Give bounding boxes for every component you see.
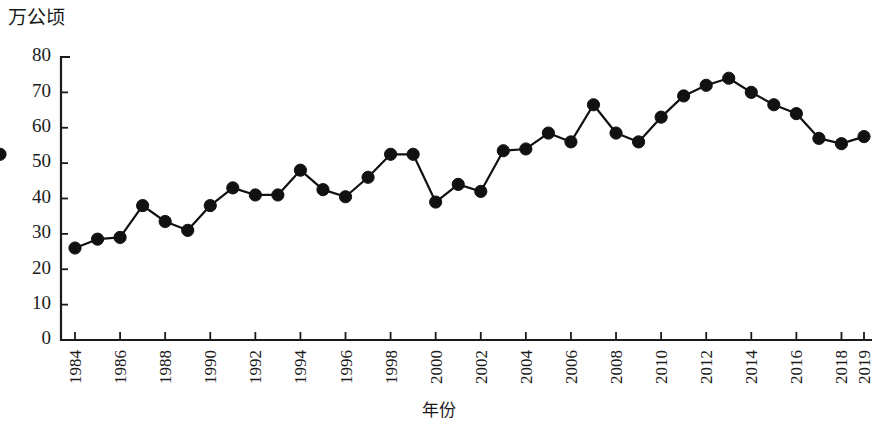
data-point-marker (475, 185, 487, 197)
data-point-marker (204, 199, 216, 211)
y-tick-label: 70 (32, 80, 51, 101)
data-point-marker (182, 224, 194, 236)
x-tick-label: 2019 (855, 350, 874, 384)
x-tick-label: 1994 (291, 350, 310, 385)
data-point-marker (678, 90, 690, 102)
data-point-marker (362, 171, 374, 183)
data-point-marker (69, 242, 81, 254)
data-point-marker (0, 148, 6, 160)
data-point-marker (520, 143, 532, 155)
data-point-marker (339, 191, 351, 203)
data-point-marker (497, 145, 509, 157)
data-point-marker (700, 79, 712, 91)
x-tick-label: 2016 (787, 350, 806, 384)
data-point-marker (272, 189, 284, 201)
data-point-marker (159, 215, 171, 227)
x-tick-label: 2006 (562, 350, 581, 384)
x-tick-label: 2000 (427, 350, 446, 384)
x-tick-label: 1988 (156, 350, 175, 384)
x-tick-label: 2004 (517, 350, 536, 385)
data-point-marker (294, 164, 306, 176)
x-tick-label: 1984 (66, 350, 85, 385)
data-point-marker (632, 136, 644, 148)
data-point-marker (407, 148, 419, 160)
chart-figure: 万公顷 01020304050607080 198419861988199019… (0, 0, 878, 423)
data-point-marker (452, 178, 464, 190)
data-point-marker (790, 108, 802, 120)
axis-frame (61, 57, 872, 340)
y-tick-label: 50 (32, 150, 51, 171)
x-tick-label: 2012 (697, 350, 716, 384)
data-point-marker (723, 72, 735, 84)
data-point-marker (768, 99, 780, 111)
data-point-marker (587, 99, 599, 111)
x-tick-label: 1992 (246, 350, 265, 384)
y-tick-label: 30 (32, 221, 51, 242)
data-point-marker (430, 196, 442, 208)
data-point-marker (227, 182, 239, 194)
data-point-marker (317, 184, 329, 196)
x-tick-label: 1990 (201, 350, 220, 384)
y-tick-label: 60 (32, 115, 51, 136)
y-axis-tick-labels: 01020304050607080 (32, 44, 51, 348)
data-point-marker (137, 199, 149, 211)
data-point-marker (655, 111, 667, 123)
x-tick-label: 2002 (472, 350, 491, 384)
data-point-marker (91, 233, 103, 245)
x-axis-tick-marks (75, 332, 864, 340)
data-point-marker (542, 127, 554, 139)
data-point-marker (385, 148, 397, 160)
y-tick-label: 0 (42, 327, 52, 348)
x-tick-label: 1996 (337, 350, 356, 384)
data-point-marker (858, 130, 870, 142)
y-tick-label: 40 (32, 186, 51, 207)
data-point-marker (745, 86, 757, 98)
y-tick-label: 20 (32, 257, 51, 278)
data-point-marker (114, 231, 126, 243)
x-tick-label: 2008 (607, 350, 626, 384)
data-point-marker (835, 138, 847, 150)
data-point-marker (249, 189, 261, 201)
x-tick-label: 1986 (111, 350, 130, 384)
y-tick-label: 10 (32, 292, 51, 313)
x-axis-tick-labels: 1984198619881990199219941996199820002002… (66, 350, 874, 385)
x-tick-label: 2014 (742, 350, 761, 385)
data-point-marker (565, 136, 577, 148)
series-markers (0, 72, 870, 254)
series-line (75, 78, 864, 248)
x-tick-label: 2010 (652, 350, 671, 384)
data-point-marker (813, 132, 825, 144)
y-tick-label: 80 (32, 44, 51, 65)
line-chart-plot: 01020304050607080 1984198619881990199219… (0, 0, 878, 423)
x-tick-label: 1998 (382, 350, 401, 384)
x-tick-label: 2018 (832, 350, 851, 384)
x-axis-title: 年份 (0, 396, 878, 421)
data-point-marker (610, 127, 622, 139)
